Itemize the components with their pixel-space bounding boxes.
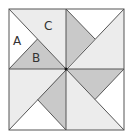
label-c: C <box>44 19 52 33</box>
label-a: A <box>13 34 22 48</box>
label-b: B <box>32 51 40 65</box>
center-point <box>65 68 68 71</box>
quilt-block-diagram: A B C <box>0 0 132 139</box>
